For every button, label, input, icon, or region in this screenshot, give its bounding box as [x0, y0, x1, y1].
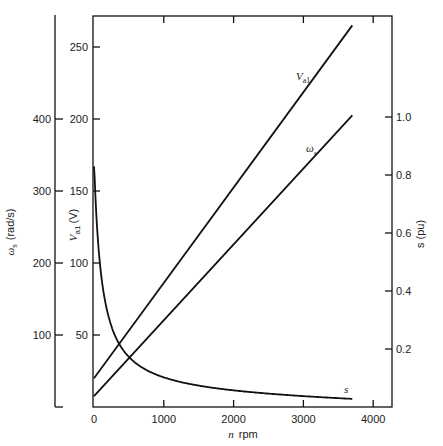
omega-tick-label: 100 — [33, 329, 51, 341]
chart: 0100020003000400050100150200250100200300… — [0, 0, 443, 446]
v-tick-label: 250 — [70, 41, 88, 53]
v-axis-sub: a1 — [73, 225, 82, 234]
v-tick-label: 100 — [70, 257, 88, 269]
x-axis-var: n — [228, 428, 234, 440]
omega-axis-sub: s — [11, 244, 18, 248]
x-tick-label: 3000 — [291, 413, 315, 425]
s-tick-label: 0.6 — [396, 227, 411, 239]
curve-label-s: s — [344, 383, 348, 395]
omega-tick-label: 200 — [33, 257, 51, 269]
omega-tick-label: 300 — [33, 185, 51, 197]
x-axis-unit: rpm — [239, 428, 258, 440]
x-tick-label: 0 — [91, 413, 97, 425]
v-axis-unit: (V) — [67, 209, 79, 224]
curve-omega-s — [94, 115, 352, 396]
curve-label-v-a1: Va1 — [296, 70, 310, 85]
v-tick-label: 200 — [70, 113, 88, 125]
curves — [94, 25, 352, 399]
omega-tick-label: 400 — [33, 113, 51, 125]
v-tick-label: 150 — [70, 185, 88, 197]
omega-axis-title: ωs(rad/s) — [4, 208, 18, 255]
curve-label-omega-sub: s — [314, 149, 317, 157]
s-axis-title: s (pu) — [414, 220, 426, 248]
v-axis-title: Va1(V) — [67, 209, 82, 241]
v-tick-label: 50 — [76, 329, 88, 341]
x-tick-label: 2000 — [221, 413, 245, 425]
s-tick-label: 0.4 — [396, 285, 411, 297]
omega-axis-unit: (rad/s) — [4, 208, 16, 240]
axis-titles: Va1ωssnrpmVa1(V)ωs(rad/s)s (pu) — [4, 70, 426, 440]
s-tick-label: 0.8 — [396, 169, 411, 181]
axes: 0100020003000400050100150200250100200300… — [33, 15, 412, 425]
x-tick-label: 1000 — [152, 413, 176, 425]
x-tick-label: 4000 — [361, 413, 385, 425]
curve-label-omega-s: ωs — [306, 142, 317, 157]
x-axis-title: nrpm — [228, 428, 257, 440]
curve-label-v-sub: a1 — [303, 76, 311, 85]
s-tick-label: 0.2 — [396, 343, 411, 355]
curve-v-a1 — [94, 25, 352, 378]
s-tick-label: 1.0 — [396, 111, 411, 123]
